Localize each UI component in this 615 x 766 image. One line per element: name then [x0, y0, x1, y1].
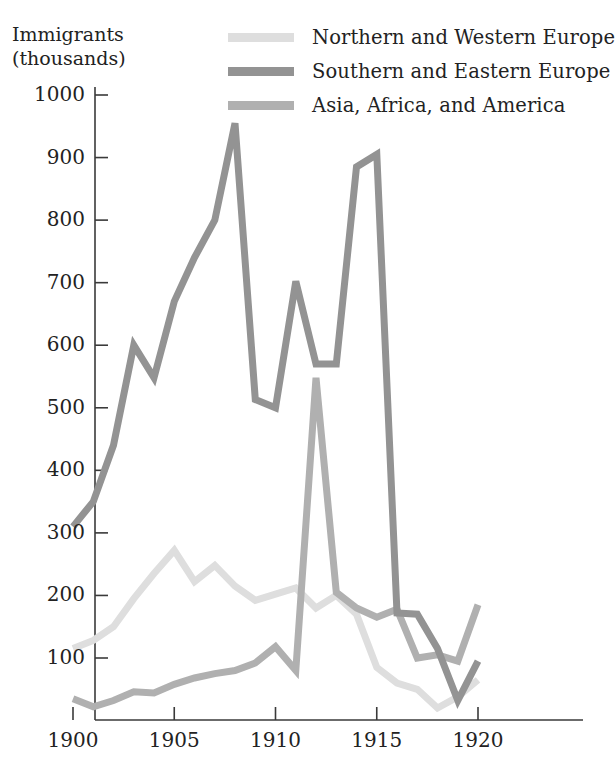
series-line-nw_europe [73, 550, 478, 708]
y-tick-label: 1000 [23, 82, 85, 106]
x-tick-label: 1905 [139, 728, 209, 752]
y-tick-label: 600 [23, 332, 85, 356]
y-tick-label: 400 [23, 457, 85, 481]
series-line-asia_africa_america [73, 378, 478, 707]
y-tick-label: 500 [23, 395, 85, 419]
x-tick-label: 1900 [38, 728, 108, 752]
series-line-se_europe [73, 123, 478, 700]
y-tick-label: 900 [23, 145, 85, 169]
y-tick-label: 200 [23, 582, 85, 606]
y-tick-label: 700 [23, 270, 85, 294]
y-tick-label: 100 [23, 645, 85, 669]
x-tick-label: 1920 [443, 728, 513, 752]
y-tick-label: 800 [23, 207, 85, 231]
y-tick-label: 300 [23, 520, 85, 544]
x-tick-label: 1910 [241, 728, 311, 752]
x-tick-label: 1915 [342, 728, 412, 752]
